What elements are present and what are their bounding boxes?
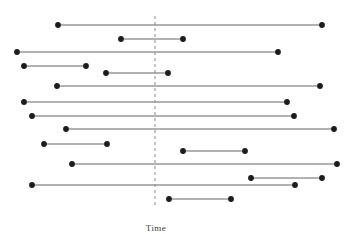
interval-segment bbox=[166, 196, 234, 202]
segment-end-marker bbox=[83, 63, 89, 69]
segment-start-marker bbox=[41, 141, 47, 147]
segment-end-marker bbox=[292, 182, 298, 188]
interval-segment bbox=[69, 161, 340, 167]
x-axis-label: Time bbox=[146, 223, 166, 233]
interval-segment bbox=[63, 126, 337, 132]
segments-group bbox=[14, 22, 340, 202]
interval-segment bbox=[21, 63, 89, 69]
segment-start-marker bbox=[69, 161, 75, 167]
interval-segment bbox=[29, 113, 297, 119]
interval-segment bbox=[54, 83, 323, 89]
interval-segment bbox=[41, 141, 110, 147]
segment-start-marker bbox=[21, 99, 27, 105]
segment-end-marker bbox=[104, 141, 110, 147]
interval-segment bbox=[14, 49, 281, 55]
plot-area bbox=[0, 0, 354, 234]
segment-start-marker bbox=[29, 182, 35, 188]
segment-start-marker bbox=[21, 63, 27, 69]
segment-end-marker bbox=[317, 83, 323, 89]
segment-start-marker bbox=[29, 113, 35, 119]
segment-end-marker bbox=[291, 113, 297, 119]
segment-start-marker bbox=[54, 83, 60, 89]
segment-end-marker bbox=[284, 99, 290, 105]
interval-segment bbox=[180, 148, 248, 154]
segment-start-marker bbox=[55, 22, 61, 28]
segment-end-marker bbox=[242, 148, 248, 154]
segment-start-marker bbox=[103, 70, 109, 76]
interval-segment bbox=[248, 175, 325, 181]
interval-segment bbox=[55, 22, 325, 28]
segment-end-marker bbox=[275, 49, 281, 55]
segment-start-marker bbox=[118, 36, 124, 42]
segment-end-marker bbox=[180, 36, 186, 42]
interval-plot: Time bbox=[0, 0, 354, 234]
segment-start-marker bbox=[14, 49, 20, 55]
plot-svg bbox=[0, 0, 354, 234]
interval-segment bbox=[103, 70, 171, 76]
segment-end-marker bbox=[319, 22, 325, 28]
segment-end-marker bbox=[319, 175, 325, 181]
segment-start-marker bbox=[248, 175, 254, 181]
segment-end-marker bbox=[334, 161, 340, 167]
segment-start-marker bbox=[166, 196, 172, 202]
interval-segment bbox=[29, 182, 298, 188]
segment-end-marker bbox=[331, 126, 337, 132]
segment-end-marker bbox=[165, 70, 171, 76]
interval-segment bbox=[118, 36, 186, 42]
segment-end-marker bbox=[228, 196, 234, 202]
segment-start-marker bbox=[63, 126, 69, 132]
segment-start-marker bbox=[180, 148, 186, 154]
